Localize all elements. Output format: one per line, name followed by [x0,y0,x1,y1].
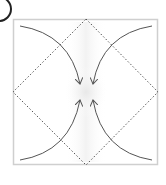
fold-diagram [0,0,166,185]
center-shadow [64,66,108,118]
